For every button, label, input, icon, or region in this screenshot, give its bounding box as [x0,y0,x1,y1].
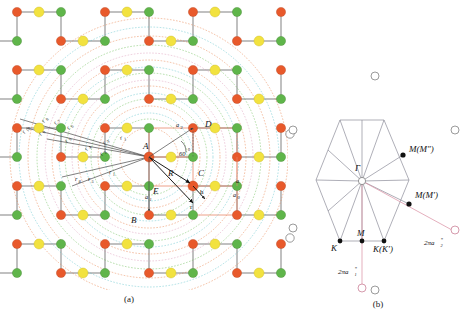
svg-text:2: 2 [441,243,444,248]
point-M [360,239,365,244]
site-label-D: D [204,119,212,129]
svg-text:2πa: 2πa [338,268,349,276]
panel-a-group: A B C D E R h r a 2 a 1 60 ° [0,7,294,304]
point-K-prime [382,239,387,244]
reciprocal-lattice-points [289,72,459,294]
figure-canvas: A B C D E R h r a 2 a 1 60 ° [0,0,468,317]
label-M-Mdoubleprime: M(M″) [408,144,434,154]
svg-text:7: 7 [56,118,62,123]
point-M-prime [406,201,411,206]
panel-a-caption: (a) [124,294,134,304]
reciprocal-point [451,126,459,134]
shell-label-r1: r 1 [119,132,127,142]
svg-text:1: 1 [150,197,152,202]
reciprocal-point [289,224,297,232]
svg-text:2πa: 2πa [424,239,435,247]
recip-vector-endpoint-a2 [451,226,459,234]
point-K [338,239,343,244]
point-gamma [358,177,365,184]
svg-text:10: 10 [25,125,32,132]
svg-text:1: 1 [112,172,115,177]
svg-text:*: * [355,266,358,271]
label-2pi-a2-star: 2πa * 2 [424,237,444,248]
lattice-constant-label-a: a [236,177,239,184]
label-2pi-a1-star: 2πa * 1 [338,266,358,277]
label-K-Kprime: K(K′) [372,244,393,254]
svg-text:8: 8 [79,179,82,184]
vector-label-h: h [200,188,204,196]
vector-label-R: R [167,168,174,178]
svg-text:8: 8 [44,116,50,121]
panel-b-labels: Γ K M K(K′) M(M″) M(M′) 2πa * 2 2πa * 1 … [330,144,444,309]
label-gamma: Γ [354,163,361,173]
shell-label-r5-lower: r 5 [88,175,95,184]
recip-vector-endpoint-a1 [358,284,366,292]
svg-text:a: a [145,193,148,200]
svg-text:a: a [176,121,179,128]
shell-label-r4: r 4 [82,142,93,152]
site-label-B: B [131,215,137,225]
site-label-C: C [198,168,205,178]
figure-root: A B C D E R h r a 2 a 1 60 ° [0,0,468,317]
reciprocal-point [289,126,297,134]
reciprocal-point [371,286,379,294]
svg-text:6: 6 [69,123,75,128]
site-label-E: E [152,186,159,196]
label-M-Mprime: M(M′) [414,190,438,200]
lattice-bonds [0,12,281,273]
open-site-marker-bottom [286,234,294,242]
svg-text:a: a [233,191,236,198]
reciprocal-vectors [362,181,452,285]
reciprocal-point [371,72,379,80]
svg-text:0: 0 [238,195,241,200]
panel-b-caption: (b) [373,299,384,309]
shell-label-r8: r 8 [39,114,50,124]
svg-text:9: 9 [41,129,47,134]
shell-label-r10: r 10 [20,123,32,135]
point-M-double-prime [400,152,405,157]
high-symmetry-points [338,152,412,243]
label-M: M [356,228,365,238]
site-label-A: A [142,141,149,151]
svg-text:°: ° [188,147,191,154]
svg-text:5: 5 [92,179,95,184]
svg-text:1: 1 [123,136,127,141]
label-K: K [330,243,338,253]
svg-text:*: * [441,237,444,242]
svg-text:1: 1 [355,272,357,277]
svg-text:3: 3 [105,138,111,143]
panel-b-group: Γ K M K(K′) M(M″) M(M′) 2πa * 2 2πa * 1 … [289,72,459,309]
lattice-vector-label-a2: a 2 [176,121,184,130]
svg-text:60: 60 [179,150,186,157]
